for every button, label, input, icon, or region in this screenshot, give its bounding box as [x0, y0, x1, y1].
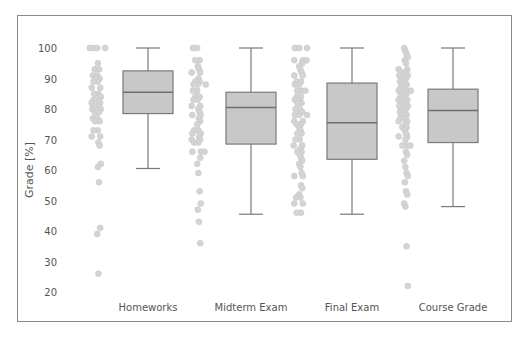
data-point — [291, 72, 297, 78]
data-point — [300, 72, 306, 78]
data-point — [304, 45, 310, 51]
data-point — [189, 69, 195, 75]
data-point — [304, 112, 310, 118]
data-point — [191, 97, 197, 103]
data-point — [293, 106, 299, 112]
data-point — [190, 45, 196, 51]
data-point — [399, 143, 405, 149]
data-point — [299, 185, 305, 191]
data-point — [405, 173, 411, 179]
x-category-label: Midterm Exam — [215, 302, 288, 313]
data-point — [198, 201, 204, 207]
data-point — [402, 179, 408, 185]
y-tick-label: 80 — [44, 104, 57, 115]
data-point — [401, 158, 407, 164]
data-point — [191, 82, 197, 88]
data-point — [197, 188, 203, 194]
data-point — [95, 60, 101, 66]
data-point — [407, 143, 413, 149]
data-point — [97, 133, 103, 139]
y-tick-label: 100 — [38, 43, 57, 54]
box-final-exam — [327, 48, 377, 214]
data-point — [300, 201, 306, 207]
box-midterm-exam — [226, 48, 276, 214]
data-point — [92, 109, 98, 115]
y-tick-label: 20 — [44, 287, 57, 298]
data-point — [95, 271, 101, 277]
data-point — [189, 149, 195, 155]
data-point — [293, 194, 299, 200]
data-point — [94, 231, 100, 237]
data-point — [97, 143, 103, 149]
box-homeworks — [123, 48, 173, 168]
data-point — [97, 225, 103, 231]
data-point — [396, 133, 402, 139]
y-tick-label: 50 — [44, 196, 57, 207]
data-point — [189, 112, 195, 118]
data-point — [404, 191, 410, 197]
data-point — [302, 88, 308, 94]
y-tick-label: 30 — [44, 257, 57, 268]
data-point — [402, 164, 408, 170]
data-point — [294, 100, 300, 106]
data-point — [196, 219, 202, 225]
data-point — [291, 57, 297, 63]
data-point — [293, 137, 299, 143]
y-axis-ticks: 2030405060708090100 — [38, 43, 57, 298]
data-point — [97, 85, 103, 91]
data-point — [297, 164, 303, 170]
data-point — [190, 88, 196, 94]
iqr-box — [327, 83, 377, 159]
y-axis-label: Grade [%] — [23, 142, 36, 198]
data-point — [189, 103, 195, 109]
data-point — [300, 173, 306, 179]
data-point — [95, 164, 101, 170]
data-point — [197, 69, 203, 75]
data-point — [89, 85, 95, 91]
data-point — [197, 155, 203, 161]
data-point — [396, 118, 402, 124]
y-tick-label: 90 — [44, 74, 57, 85]
data-point — [202, 149, 208, 155]
data-point — [192, 57, 198, 63]
data-point — [291, 173, 297, 179]
data-point — [405, 283, 411, 289]
x-category-label: Course Grade — [419, 302, 488, 313]
data-point — [291, 201, 297, 207]
iqr-box — [226, 92, 276, 144]
data-point — [191, 140, 197, 146]
data-point — [203, 82, 209, 88]
data-point — [92, 66, 98, 72]
y-tick-label: 70 — [44, 135, 57, 146]
data-point — [404, 243, 410, 249]
data-point — [189, 130, 195, 136]
data-point — [402, 204, 408, 210]
iqr-box — [428, 89, 478, 142]
data-point — [194, 121, 200, 127]
box-course-grade — [428, 48, 478, 207]
data-point — [294, 88, 300, 94]
x-axis-categories: HomeworksMidterm ExamFinal ExamCourse Gr… — [119, 302, 488, 313]
data-point — [294, 210, 300, 216]
box-plot: Grade [%] 2030405060708090100 HomeworksM… — [0, 0, 528, 339]
data-point — [292, 112, 298, 118]
y-tick-label: 60 — [44, 165, 57, 176]
data-point — [195, 170, 201, 176]
data-point — [96, 179, 102, 185]
x-category-label: Homeworks — [119, 302, 178, 313]
data-point — [404, 152, 410, 158]
data-point — [91, 91, 97, 97]
data-point — [292, 45, 298, 51]
data-point — [91, 79, 97, 85]
data-point — [292, 82, 298, 88]
y-tick-label: 40 — [44, 226, 57, 237]
data-point — [402, 137, 408, 143]
data-point — [92, 118, 98, 124]
data-point — [197, 240, 203, 246]
data-point — [89, 133, 95, 139]
data-point — [294, 130, 300, 136]
data-point — [102, 45, 108, 51]
data-point — [91, 127, 97, 133]
data-point — [195, 207, 201, 213]
data-point — [291, 143, 297, 149]
